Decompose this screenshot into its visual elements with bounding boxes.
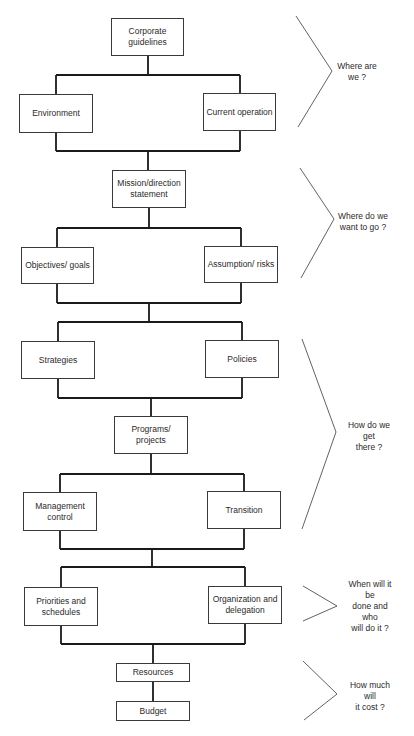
node-policies: Policies <box>205 340 279 378</box>
node-organization: Organization and delegation <box>208 586 282 624</box>
node-label: Mission/direction statement <box>115 178 183 200</box>
node-label: Current operation <box>206 107 272 118</box>
node-label: Budget <box>140 706 167 717</box>
question-label-q5: How much will it cost ? <box>348 680 392 713</box>
node-budget: Budget <box>116 701 190 721</box>
connector-line <box>57 283 241 322</box>
planning-flowchart: Corporate guidelinesEnvironmentCurrent o… <box>0 0 414 736</box>
node-label: Resources <box>133 667 174 678</box>
connector-line <box>61 567 245 587</box>
connector-line <box>60 529 244 567</box>
connector-line <box>61 624 245 663</box>
connector-line <box>57 208 241 247</box>
node-label: Strategies <box>39 355 77 366</box>
connector-line <box>58 378 242 416</box>
bracket-chevron <box>300 168 334 278</box>
node-label: Policies <box>227 354 256 365</box>
node-management: Management control <box>23 492 97 531</box>
node-label: Priorities and schedules <box>27 596 95 618</box>
node-label: Management control <box>26 501 94 523</box>
node-objectives: Objectives/ goals <box>21 247 94 284</box>
node-corporate: Corporate guidelines <box>111 18 184 56</box>
question-label-q1: Where are we ? <box>337 61 377 83</box>
node-current: Current operation <box>203 93 276 131</box>
node-environment: Environment <box>19 94 93 133</box>
connector-line <box>56 56 240 94</box>
connector-line <box>58 322 242 341</box>
connector-line <box>60 454 244 492</box>
node-label: Transition <box>225 505 262 516</box>
node-label: Objectives/ goals <box>25 260 90 271</box>
bracket-chevron <box>303 661 337 720</box>
node-label: Programs/ projects <box>117 424 185 446</box>
node-mission: Mission/direction statement <box>112 170 186 208</box>
node-priorities: Priorities and schedules <box>24 587 98 626</box>
bracket-chevron <box>303 586 337 621</box>
node-label: Corporate guidelines <box>114 26 181 48</box>
question-label-q2: Where do we want to go ? <box>338 211 388 233</box>
node-label: Assumption/ risks <box>208 259 275 270</box>
node-strategies: Strategies <box>21 341 95 379</box>
node-resources: Resources <box>116 663 190 682</box>
node-transition: Transition <box>207 491 281 529</box>
question-label-q3: How do we get there ? <box>347 420 392 453</box>
question-brackets <box>296 16 337 720</box>
bracket-chevron <box>302 339 336 529</box>
bracket-chevron <box>296 16 332 127</box>
node-programs: Programs/ projects <box>114 416 188 454</box>
question-label-q4: When will it be done and who will do it … <box>348 579 392 634</box>
node-assumption: Assumption/ risks <box>204 246 278 283</box>
node-label: Environment <box>32 108 80 119</box>
connector-line <box>56 131 240 170</box>
node-label: Organization and delegation <box>211 594 279 616</box>
